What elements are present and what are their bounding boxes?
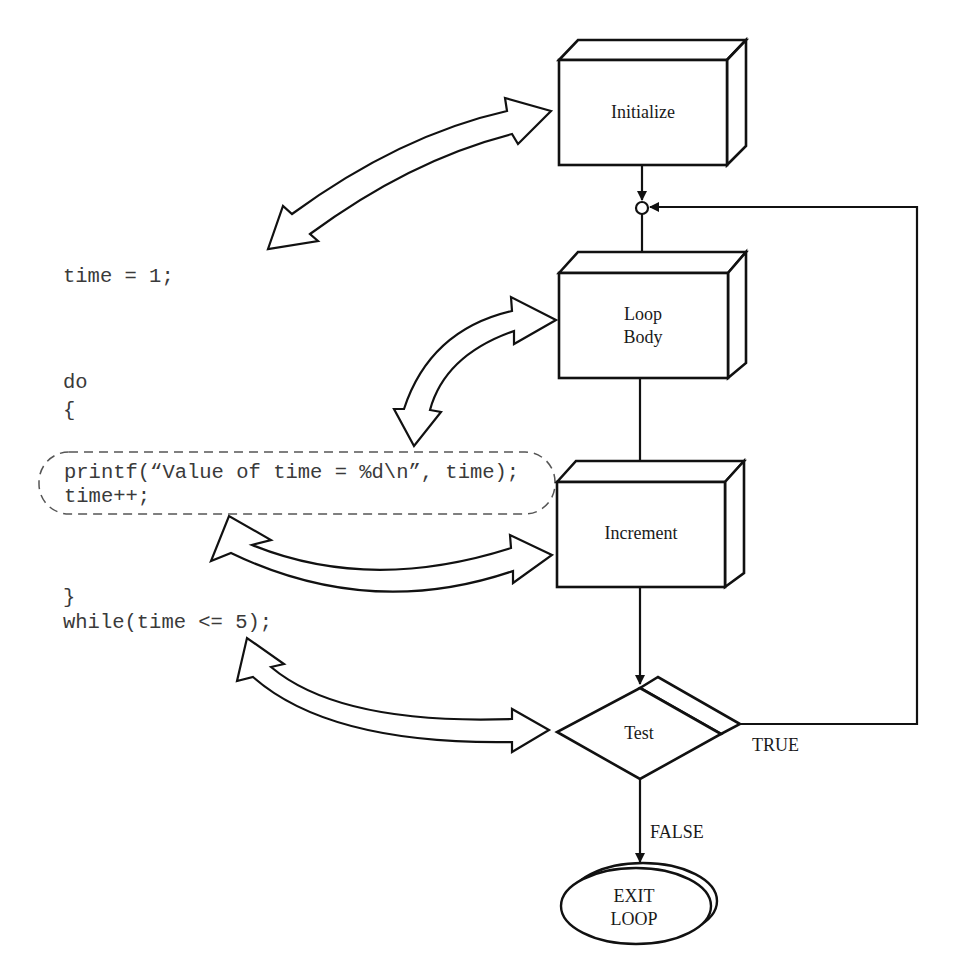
- code-line-do: do: [63, 371, 88, 394]
- mapping-arrow-loop-body: [394, 297, 556, 446]
- loop-body-label-line1: Loop: [624, 304, 662, 324]
- loop-body-label-line2: Body: [623, 327, 662, 347]
- mapping-arrow-test: [237, 638, 549, 752]
- mapping-arrow-init: [268, 98, 551, 249]
- mapping-arrow-increment: [211, 516, 552, 592]
- code-line-increment: time++;: [64, 485, 150, 508]
- code-line-printf: printf(“Value of time = %d\n”, time);: [64, 461, 519, 484]
- code-line-init: time = 1;: [63, 265, 174, 288]
- exit-label-line2: LOOP: [610, 909, 657, 929]
- false-label: FALSE: [650, 822, 704, 842]
- true-label: TRUE: [752, 735, 799, 755]
- code-line-open-brace: {: [63, 399, 75, 422]
- test-diamond: Test: [557, 677, 740, 779]
- test-label: Test: [624, 723, 654, 743]
- initialize-box: Initialize: [559, 40, 746, 165]
- loop-body-box: Loop Body: [559, 252, 746, 378]
- exit-label-line1: EXIT: [614, 886, 655, 906]
- exit-loop-terminal: EXIT LOOP: [561, 863, 717, 944]
- do-while-diagram: time = 1; do { printf(“Value of time = %…: [0, 0, 955, 971]
- increment-label: Increment: [605, 523, 678, 543]
- increment-box: Increment: [557, 461, 744, 587]
- initialize-label: Initialize: [611, 102, 675, 122]
- junction-node: [636, 202, 648, 214]
- code-line-while: while(time <= 5);: [63, 611, 272, 634]
- code-line-close-brace: }: [63, 586, 75, 609]
